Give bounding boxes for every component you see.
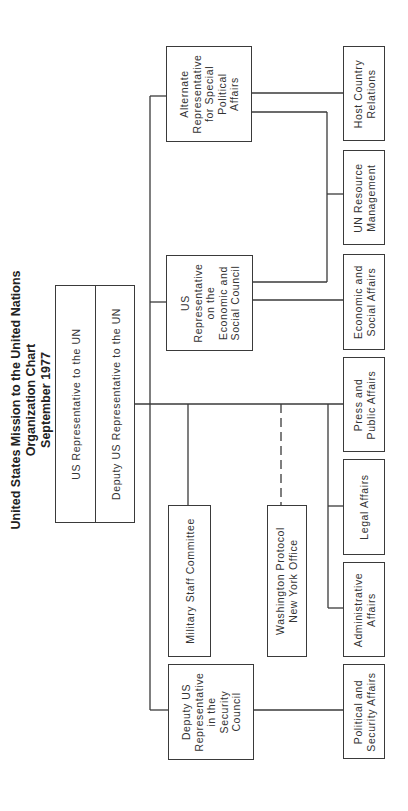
security-council-representative-box: Deputy US Representative in the Security… <box>168 664 254 760</box>
alternate-representative-box: Alternate Representative for Special Pol… <box>166 46 252 142</box>
legal-affairs-box: Legal Affairs <box>343 459 385 555</box>
title-line-3: September 1977 <box>39 270 54 529</box>
political-security-affairs-box: Political and Security Affairs <box>343 664 385 759</box>
main-box: US Representative to the UN Deputy US Re… <box>55 285 135 523</box>
host-country-relations-box: Host Country Relations <box>343 46 385 141</box>
us-representative-label: US Representative to the UN <box>70 328 83 480</box>
un-resource-management-box: UN Resource Management <box>343 150 385 245</box>
ecosoc-representative-box: US Representative on the Economic and So… <box>166 255 253 351</box>
economic-social-affairs-box: Economic and Social Affairs <box>343 254 385 350</box>
deputy-us-representative-label: Deputy US Representative to the UN <box>110 308 123 500</box>
washington-protocol-box: Washington Protocol New York Office <box>267 505 307 657</box>
title-line-2: Organization Chart <box>24 270 39 529</box>
press-public-affairs-box: Press and Public Affairs <box>343 357 385 452</box>
administrative-affairs-box: Administrative Affairs <box>343 562 385 657</box>
title-line-1: United States Mission to the United Nati… <box>9 270 24 529</box>
military-staff-committee-box: Military Staff Committee <box>168 505 211 657</box>
chart-title: United States Mission to the United Nati… <box>8 250 54 550</box>
org-chart: United States Mission to the United Nati… <box>0 0 408 811</box>
